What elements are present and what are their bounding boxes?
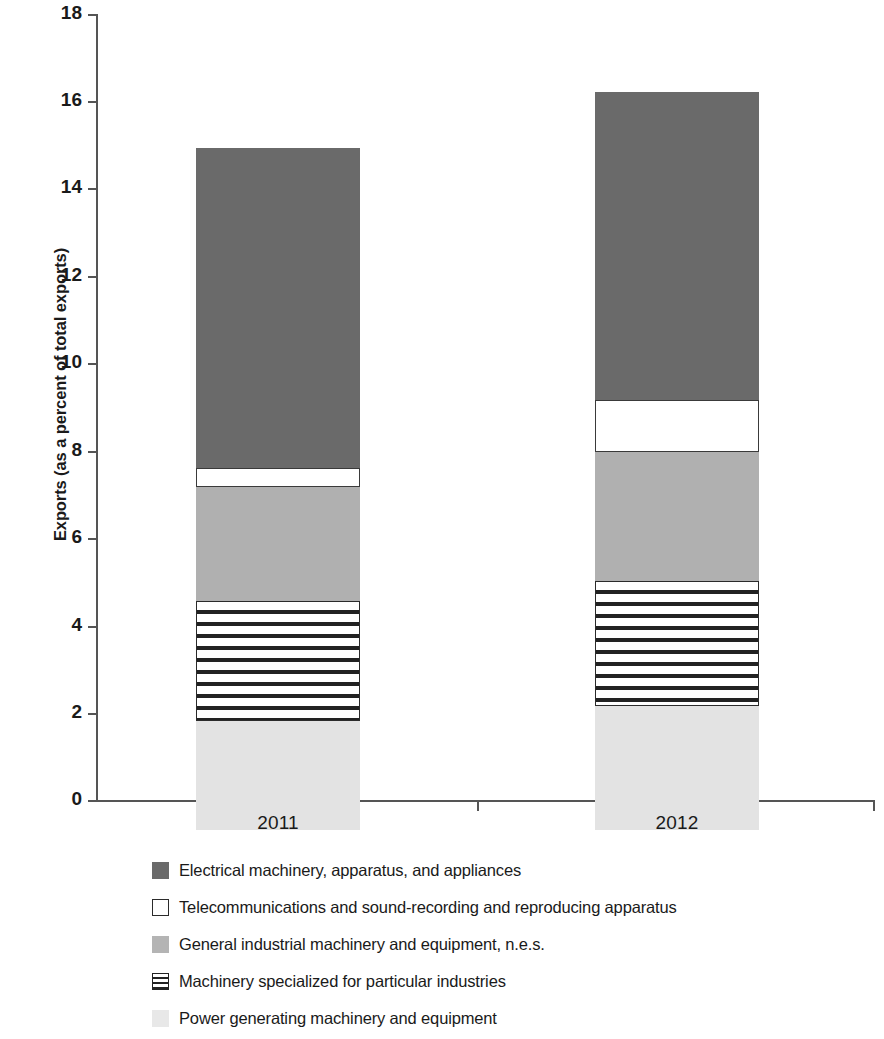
legend-item-electrical-machinery: Electrical machinery, apparatus, and app… [152, 852, 872, 889]
legend-label-telecommunications: Telecommunications and sound-recording a… [179, 898, 677, 917]
y-axis-line [96, 14, 98, 801]
x-tick-divider [477, 800, 479, 811]
legend-label-general-industrial: General industrial machinery and equipme… [179, 935, 545, 954]
legend-swatch-white-outline-icon [152, 899, 169, 916]
y-tick-label-18: 18 [40, 2, 82, 24]
y-tick-label-8: 8 [40, 439, 82, 461]
legend-swatch-horizontal-stripes-icon [152, 973, 169, 990]
stacked-bar-chart: Exports (as a percent of total exports) … [0, 0, 884, 830]
segment-2012-general-industrial [595, 452, 759, 581]
y-tick-label-14: 14 [40, 176, 82, 198]
y-tick-label-12: 12 [40, 264, 82, 286]
legend-swatch-medium-gray-icon [152, 936, 169, 953]
segment-2012-electrical-machinery [595, 92, 759, 400]
y-tick-10 [88, 363, 98, 365]
y-tick-label-6: 6 [40, 526, 82, 548]
segment-2011-electrical-machinery [196, 148, 360, 468]
x-category-label-2012: 2012 [655, 812, 698, 834]
legend-item-power-generating: Power generating machinery and equipment [152, 1000, 872, 1037]
y-tick-6 [88, 538, 98, 540]
segment-2011-telecommunications [196, 468, 360, 487]
y-tick-label-16: 16 [40, 89, 82, 111]
bar-2012 [595, 30, 759, 830]
segment-2012-telecommunications [595, 400, 759, 452]
y-tick-label-4: 4 [40, 614, 82, 636]
y-tick-0 [88, 800, 98, 802]
bar-2011 [196, 30, 360, 830]
chart-legend: Electrical machinery, apparatus, and app… [152, 852, 872, 1037]
segment-2011-general-industrial [196, 487, 360, 601]
y-tick-4 [88, 626, 98, 628]
y-tick-16 [88, 101, 98, 103]
y-tick-label-10: 10 [40, 351, 82, 373]
y-tick-2 [88, 713, 98, 715]
legend-item-machinery-specialized: Machinery specialized for particular ind… [152, 963, 872, 1000]
segment-2012-machinery-specialized [595, 581, 759, 706]
y-tick-8 [88, 451, 98, 453]
legend-item-telecommunications: Telecommunications and sound-recording a… [152, 889, 872, 926]
y-tick-12 [88, 276, 98, 278]
y-tick-label-2: 2 [40, 701, 82, 723]
segment-2011-machinery-specialized [196, 601, 360, 721]
x-category-label-2011: 2011 [257, 812, 299, 834]
legend-label-power-generating: Power generating machinery and equipment [179, 1009, 497, 1028]
y-tick-label-0: 0 [40, 788, 82, 810]
legend-label-electrical-machinery: Electrical machinery, apparatus, and app… [179, 861, 521, 880]
x-tick-end [873, 800, 875, 811]
y-tick-18 [88, 14, 98, 16]
y-tick-14 [88, 188, 98, 190]
legend-swatch-dark-gray-icon [152, 862, 169, 879]
legend-item-general-industrial: General industrial machinery and equipme… [152, 926, 872, 963]
legend-label-machinery-specialized: Machinery specialized for particular ind… [179, 972, 506, 991]
legend-swatch-light-gray-icon [152, 1010, 169, 1027]
